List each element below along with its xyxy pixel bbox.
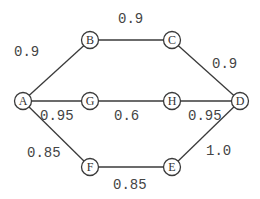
node-d: D <box>232 93 249 110</box>
node-label: F <box>87 160 94 174</box>
edge-weight-h-d: 0.95 <box>188 108 222 124</box>
node-label: B <box>86 33 94 47</box>
edge-weight-a-f: 0.85 <box>27 145 61 161</box>
node-h: H <box>164 93 181 110</box>
edge-weight-e-d: 1.0 <box>206 143 231 159</box>
graph-diagram: 0.90.90.90.950.60.950.850.851.0 ABCDEFGH <box>0 0 260 199</box>
node-b: B <box>82 32 99 49</box>
node-f: F <box>82 159 99 176</box>
edge-weight-g-h: 0.6 <box>114 108 139 124</box>
node-label: A <box>19 94 28 108</box>
node-label: E <box>168 160 175 174</box>
edge-weight-f-e: 0.85 <box>113 177 147 193</box>
graph-svg: 0.90.90.90.950.60.950.850.851.0 ABCDEFGH <box>0 0 260 199</box>
edge-weight-a-g: 0.95 <box>40 108 74 124</box>
node-a: A <box>15 93 32 110</box>
node-label: C <box>168 33 176 47</box>
node-e: E <box>164 159 181 176</box>
edge-weight-c-d: 0.9 <box>212 56 237 72</box>
node-label: D <box>236 94 245 108</box>
node-c: C <box>164 32 181 49</box>
node-label: H <box>168 94 177 108</box>
node-label: G <box>86 94 95 108</box>
edge-weight-a-b: 0.9 <box>14 44 39 60</box>
edge-weights-layer: 0.90.90.90.950.60.950.850.851.0 <box>14 11 237 193</box>
edge-weight-b-c: 0.9 <box>118 11 143 27</box>
node-g: G <box>82 93 99 110</box>
